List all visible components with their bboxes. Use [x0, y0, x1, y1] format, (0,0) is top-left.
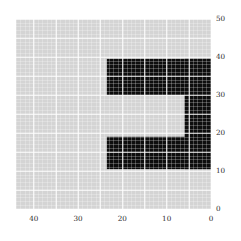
- x-tick-2: 20: [118, 215, 127, 222]
- x-tick-0: 40: [29, 215, 38, 222]
- y-tick-1: 40: [216, 53, 225, 60]
- x-tick-3: 10: [162, 215, 171, 222]
- y-tick-4: 10: [216, 167, 225, 174]
- x-tick-1: 30: [73, 215, 82, 222]
- y-tick-3: 20: [216, 129, 225, 136]
- heatmap-plot-area: [16, 19, 211, 209]
- y-tick-2: 30: [216, 91, 225, 98]
- y-tick-0: 50: [216, 15, 225, 22]
- heatmap-grid: [16, 19, 211, 209]
- x-tick-4: 0: [209, 215, 214, 222]
- figure-canvas: 50 40 30 20 10 0 40 30 20 10 0: [0, 0, 241, 241]
- y-tick-5: 0: [216, 205, 221, 212]
